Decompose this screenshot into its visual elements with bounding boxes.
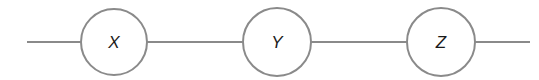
node-y: Y [243, 8, 311, 76]
chain-diagram: X Y Z [0, 0, 539, 80]
node-z-label: Z [435, 33, 447, 52]
node-x-label: X [107, 33, 120, 52]
node-x: X [81, 9, 147, 75]
node-y-label: Y [271, 33, 284, 52]
node-z: Z [407, 8, 475, 76]
